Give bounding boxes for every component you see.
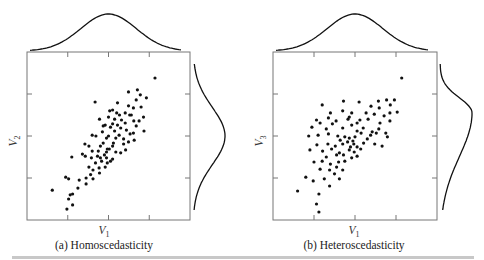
data-point	[136, 88, 139, 91]
data-point	[325, 155, 328, 158]
data-point	[108, 109, 111, 112]
data-point	[132, 119, 135, 122]
data-point	[91, 177, 94, 180]
data-point	[335, 166, 338, 169]
data-point	[127, 140, 130, 143]
data-point	[356, 145, 359, 148]
data-point	[132, 106, 135, 109]
data-point	[326, 142, 329, 145]
data-point	[71, 192, 74, 195]
data-point	[115, 111, 118, 114]
data-point	[64, 176, 67, 179]
data-point	[138, 119, 141, 122]
data-point	[341, 168, 344, 171]
data-point	[315, 143, 318, 146]
data-point	[104, 166, 107, 169]
data-point	[83, 142, 86, 145]
scatter-points	[296, 76, 403, 213]
data-point	[120, 118, 123, 121]
data-point	[341, 142, 344, 145]
data-point	[350, 156, 353, 159]
data-point	[135, 98, 138, 101]
data-point	[142, 116, 145, 119]
data-point	[94, 134, 97, 137]
data-point	[87, 166, 90, 169]
data-point	[91, 150, 94, 153]
data-point	[359, 147, 362, 150]
right-marginal-curve	[194, 64, 225, 210]
data-point	[378, 106, 381, 109]
data-point	[378, 121, 381, 124]
data-point	[327, 132, 330, 135]
data-point	[124, 111, 127, 114]
data-point	[308, 148, 311, 151]
data-point	[127, 90, 130, 93]
data-point	[338, 151, 341, 154]
data-point	[122, 142, 125, 145]
data-point	[341, 109, 344, 112]
data-point	[132, 132, 135, 135]
data-point	[327, 116, 330, 119]
data-point	[346, 140, 349, 143]
data-point	[109, 126, 112, 129]
panel-caption: (a) Homoscedasticity	[55, 239, 153, 252]
data-point	[109, 160, 112, 163]
data-point	[94, 100, 97, 103]
data-point	[362, 142, 365, 145]
data-point	[307, 134, 310, 137]
data-point	[140, 105, 143, 108]
data-point	[350, 124, 353, 127]
data-point	[353, 150, 356, 153]
data-point	[342, 153, 345, 156]
data-point	[352, 142, 355, 145]
data-point	[304, 176, 307, 179]
data-point	[84, 155, 87, 158]
data-point	[337, 160, 340, 163]
data-point	[315, 202, 318, 205]
data-point	[367, 118, 370, 121]
data-point	[348, 116, 351, 119]
data-point	[112, 142, 115, 145]
data-point	[87, 145, 90, 148]
data-point	[334, 145, 337, 148]
data-point	[104, 124, 107, 127]
data-point	[153, 76, 156, 79]
data-point	[317, 192, 320, 195]
data-point	[105, 137, 108, 140]
data-point	[116, 101, 119, 104]
data-point	[105, 156, 108, 159]
data-point	[339, 139, 342, 142]
data-point	[111, 122, 114, 125]
data-point	[119, 151, 122, 154]
data-point	[105, 150, 108, 153]
data-point	[377, 100, 380, 103]
x-axis-label: V1	[98, 224, 109, 239]
panel-homoscedasticity: V2 V1 (a) Homoscedasticity	[7, 14, 225, 252]
data-point	[114, 150, 117, 153]
data-point	[119, 126, 122, 129]
data-point	[106, 147, 109, 150]
data-point	[99, 145, 102, 148]
x-axis-label: V1	[348, 224, 359, 239]
data-point	[91, 168, 94, 171]
data-point	[356, 121, 359, 124]
data-point	[310, 126, 313, 129]
data-point	[373, 142, 376, 145]
data-point	[118, 113, 121, 116]
data-point	[91, 134, 94, 137]
data-point	[129, 132, 132, 135]
data-point	[319, 168, 322, 171]
data-point	[98, 118, 101, 121]
data-point	[366, 137, 369, 140]
data-point	[386, 135, 389, 138]
data-point	[331, 122, 334, 125]
data-point	[101, 130, 104, 133]
data-point	[67, 197, 70, 200]
scatter-points	[51, 76, 157, 210]
right-marginal-curve	[440, 64, 472, 210]
data-point	[341, 126, 344, 129]
data-point	[81, 153, 84, 156]
data-point	[122, 137, 125, 140]
data-point	[358, 118, 361, 121]
data-point	[118, 134, 121, 137]
